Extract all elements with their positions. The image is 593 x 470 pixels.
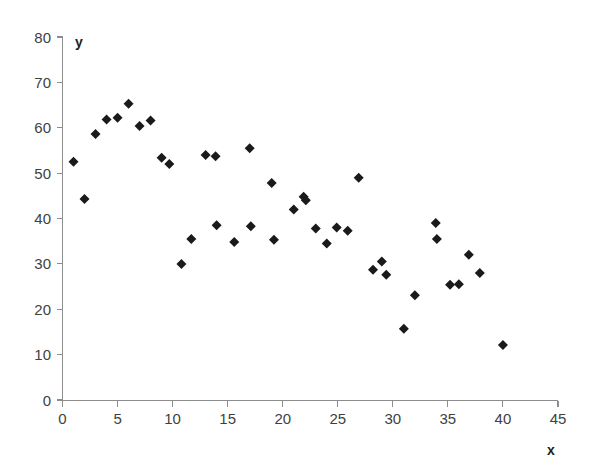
x-tick-label: 45 bbox=[550, 410, 567, 427]
y-tick-label: 40 bbox=[34, 210, 51, 227]
y-tick-label: 10 bbox=[34, 346, 51, 363]
y-tick-labels: 01020304050607080 bbox=[34, 29, 51, 409]
x-tick-label: 30 bbox=[384, 410, 401, 427]
y-tick-label: 70 bbox=[34, 74, 51, 91]
y-tick-label: 60 bbox=[34, 119, 51, 136]
x-tick-label: 5 bbox=[113, 410, 121, 427]
x-tick-label: 0 bbox=[58, 410, 66, 427]
figure-background bbox=[0, 0, 593, 470]
scatter-plot-figure: 01020304050607080 051015202530354045 y x bbox=[0, 0, 593, 470]
x-tick-label: 40 bbox=[495, 410, 512, 427]
y-tick-label: 20 bbox=[34, 301, 51, 318]
y-tick-label: 50 bbox=[34, 165, 51, 182]
x-axis-title: x bbox=[547, 442, 555, 458]
x-tick-label: 35 bbox=[440, 410, 457, 427]
y-tick-label: 80 bbox=[34, 29, 51, 46]
x-tick-label: 15 bbox=[219, 410, 236, 427]
y-tick-label: 0 bbox=[43, 392, 51, 409]
x-tick-label: 10 bbox=[164, 410, 181, 427]
plot-canvas: 01020304050607080 051015202530354045 y x bbox=[0, 0, 593, 470]
x-tick-label: 20 bbox=[274, 410, 291, 427]
x-tick-label: 25 bbox=[329, 410, 346, 427]
y-axis-title: y bbox=[75, 34, 83, 50]
y-tick-label: 30 bbox=[34, 255, 51, 272]
